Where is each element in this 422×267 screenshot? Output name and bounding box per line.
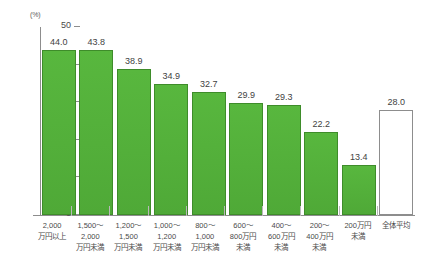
- x-axis-category-label: 200～400万円未満: [300, 216, 338, 264]
- x-axis-category-label: 800～1,000万円未満: [186, 216, 224, 264]
- bar-value-label: 43.8: [73, 37, 119, 47]
- x-axis-label-line: 全体平均: [377, 220, 415, 231]
- x-axis-label-line: 400～: [262, 220, 300, 231]
- x-axis-label-line: 200万円: [339, 220, 377, 231]
- x-axis-label-line: 未満: [300, 242, 338, 253]
- x-axis-category-label: 600～800万円未満: [224, 216, 262, 264]
- x-axis-label-line: 600万円: [262, 231, 300, 242]
- x-axis-label-line: 万円以上: [33, 231, 71, 242]
- x-axis-separator: [71, 206, 72, 216]
- bar-value-label: 29.3: [261, 92, 307, 102]
- x-axis-separator: [148, 206, 149, 216]
- x-axis-label-line: 200～: [300, 220, 338, 231]
- x-axis-label-line: 2,000: [33, 220, 71, 231]
- x-axis-label-line: 万円未満: [109, 242, 147, 253]
- bar-value-label: 38.9: [111, 56, 157, 66]
- bar: [154, 84, 188, 215]
- x-axis-category-label: 200万円未満: [339, 216, 377, 264]
- x-axis-category-label: 全体平均: [377, 216, 415, 264]
- x-axis-label-line: 1,000～: [148, 220, 186, 231]
- x-axis-label-line: 1,200～: [109, 220, 147, 231]
- x-axis-label-line: 1,000: [186, 231, 224, 242]
- bar-value-label: 28.0: [373, 97, 419, 107]
- x-axis-separator: [262, 206, 263, 216]
- bar: [229, 103, 263, 215]
- bar-chart: (%) 01020304050 44.043.838.934.932.729.9…: [0, 0, 422, 267]
- x-axis-separator: [186, 206, 187, 216]
- y-axis-tick: 50: [40, 26, 80, 27]
- x-axis-label-line: 未満: [339, 231, 377, 242]
- bar-value-label: 13.4: [336, 152, 382, 162]
- x-axis-label-line: 800万円: [224, 231, 262, 242]
- x-axis-separator: [109, 206, 110, 216]
- x-axis-label-line: 1,500～: [71, 220, 109, 231]
- x-axis-label-line: 400万円: [300, 231, 338, 242]
- x-axis-label-line: 未満: [224, 242, 262, 253]
- x-axis-label-line: 1,200: [148, 231, 186, 242]
- x-axis-category-label: 400～600万円未満: [262, 216, 300, 264]
- x-axis-label-line: 800～: [186, 220, 224, 231]
- x-axis-label-line: 未満: [262, 242, 300, 253]
- x-axis-label-line: 万円未満: [186, 242, 224, 253]
- y-axis-tick-label: 50: [61, 20, 71, 30]
- bar: [192, 92, 226, 215]
- x-axis-separator: [377, 206, 378, 216]
- x-axis-label-line: 万円未満: [148, 242, 186, 253]
- x-axis-category-label: 1,500～2,000万円未満: [71, 216, 109, 264]
- bar: [304, 132, 338, 215]
- x-axis-label-line: 万円未満: [71, 242, 109, 253]
- x-axis-category-label: 1,200～1,500万円未満: [109, 216, 147, 264]
- x-axis-labels: 2,000万円以上1,500～2,000万円未満1,200～1,500万円未満1…: [33, 216, 415, 264]
- bar: [267, 105, 301, 215]
- x-axis-label-line: 600～: [224, 220, 262, 231]
- bar: [79, 50, 113, 215]
- bar-value-label: 22.2: [298, 119, 344, 129]
- x-axis-category-label: 1,000～1,200万円未満: [148, 216, 186, 264]
- bar-value-label: 32.7: [186, 79, 232, 89]
- x-axis-label-line: 1,500: [109, 231, 147, 242]
- bar-average: [379, 110, 413, 215]
- y-axis-unit-label: (%): [30, 11, 40, 18]
- plot-area: 01020304050 44.043.838.934.932.729.929.3…: [40, 27, 415, 215]
- x-axis-separator: [224, 206, 225, 216]
- bar: [342, 165, 376, 215]
- x-axis-separator: [300, 206, 301, 216]
- bar: [117, 69, 151, 215]
- x-axis-label-line: 2,000: [71, 231, 109, 242]
- x-axis-category-label: 2,000万円以上: [33, 216, 71, 264]
- x-axis-separator: [339, 206, 340, 216]
- y-axis-tick-mark: [74, 26, 80, 27]
- bar: [42, 50, 76, 215]
